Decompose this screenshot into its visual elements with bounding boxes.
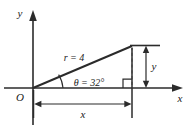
y-dimension-arrowhead-down-icon — [143, 81, 149, 88]
y-axis-arrowhead-icon — [29, 10, 37, 21]
horizontal-leg-label: x — [80, 108, 86, 120]
vertical-leg-label: y — [151, 60, 157, 72]
y-axis-label: y — [17, 7, 23, 19]
x-dimension-arrowhead-left-icon — [34, 101, 41, 107]
x-axis-arrowhead-icon — [172, 84, 183, 92]
radius-label: r = 4 — [64, 52, 85, 63]
figure-canvas: y x O r = 4 θ = 32° y x — [0, 0, 190, 125]
y-dimension-arrowhead-up-icon — [143, 46, 149, 53]
origin-label: O — [16, 91, 24, 103]
angle-label: θ = 32° — [74, 77, 105, 88]
x-dimension-arrowhead-right-icon — [124, 101, 131, 107]
x-axis-label: x — [177, 92, 183, 104]
right-angle-marker-icon — [123, 79, 132, 88]
polar-triangle-figure: y x O r = 4 θ = 32° y x — [0, 0, 190, 125]
